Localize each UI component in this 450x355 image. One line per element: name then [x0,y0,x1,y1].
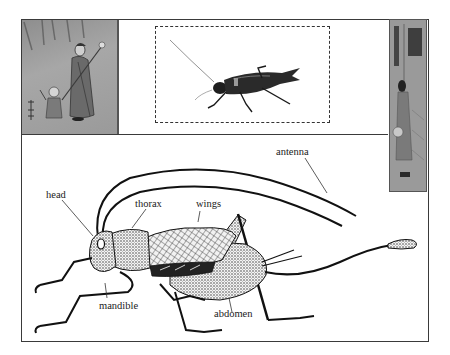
cricket-diagram [0,0,450,355]
label-abdomen: abdomen [214,308,253,319]
label-thorax: thorax [135,198,162,209]
label-head: head [46,189,66,200]
label-mandible: mandible [99,300,138,311]
label-wings: wings [196,198,221,209]
label-antenna: antenna [276,146,309,157]
